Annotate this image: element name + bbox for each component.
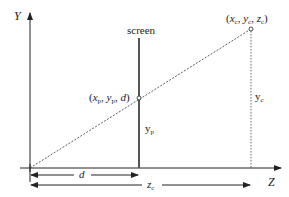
camera-point-label: (xc, yc, zc) bbox=[226, 12, 268, 26]
y-axis-label: Y bbox=[14, 9, 22, 23]
camera-point bbox=[249, 27, 253, 31]
zc-label: zc bbox=[146, 178, 154, 192]
camera-height-label: yc bbox=[255, 90, 264, 104]
z-axis-label: Z bbox=[268, 175, 275, 189]
projected-point-label: (xp, yp, d) bbox=[89, 91, 130, 105]
perspective-diagram: Y Z screen (xp, yp, d) (xc, yc, zc) yp y… bbox=[0, 0, 289, 197]
screen-height-label: yp bbox=[145, 122, 155, 136]
screen-label: screen bbox=[127, 24, 156, 36]
d-label: d bbox=[79, 168, 85, 180]
projected-point bbox=[137, 96, 141, 100]
